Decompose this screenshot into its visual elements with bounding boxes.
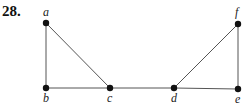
edge-a-c: [46, 23, 110, 88]
vertex-label-b: b: [43, 91, 49, 105]
vertex-label-e: e: [235, 92, 241, 106]
edge-d-f: [174, 24, 238, 88]
edges: [46, 23, 238, 89]
vertex-label-c: c: [107, 91, 113, 105]
nodes: [43, 20, 241, 92]
vertex-a: [43, 20, 49, 26]
edge-d-e: [174, 88, 238, 89]
labels: abcdef: [43, 5, 241, 106]
graph-diagram: abcdef: [0, 0, 243, 107]
vertex-label-a: a: [43, 5, 49, 19]
vertex-f: [235, 21, 241, 27]
vertex-label-d: d: [171, 91, 178, 105]
vertex-label-f: f: [235, 5, 240, 19]
